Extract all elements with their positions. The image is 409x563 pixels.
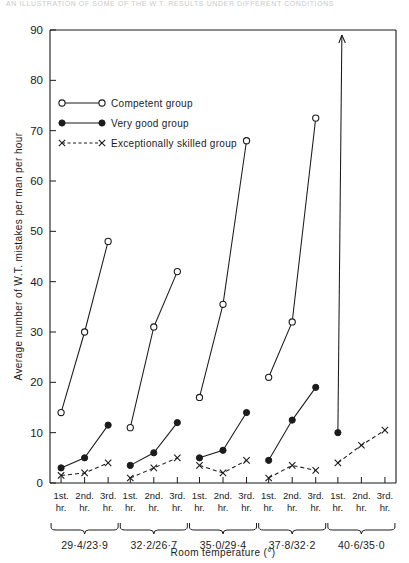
x-axis-hour-label: 3rd. [377,490,393,501]
group-brace [189,523,256,534]
data-point-marker [220,447,226,453]
data-point-marker [289,319,295,325]
group-brace [259,523,326,534]
y-axis-tick-label: 40 [30,276,43,288]
x-axis-hour-label: hr. [79,502,90,513]
x-axis-hour-label: hr. [125,502,136,513]
data-point-marker [196,462,202,468]
data-point-marker [266,457,272,463]
series-line [130,423,177,466]
y-axis-title: Average number of W.T. mistakes per man … [13,132,24,380]
x-axis-hour-label: hr. [310,502,321,513]
x-axis-hour-label: hr. [172,502,183,513]
group-temperature-label: 29·4/23·9 [61,539,108,551]
x-axis-hour-label: 2nd. [214,490,233,501]
series-line [199,141,246,398]
x-axis-title: Room temperature (°) [171,547,276,558]
chart-figure: 0102030405060708090Average number of W.T… [0,0,409,563]
series-line [338,430,385,463]
y-axis-tick-label: 80 [30,74,43,86]
legend-label: Very good group [111,118,189,129]
x-axis-hour-label: 2nd. [352,490,371,501]
data-point-marker [289,417,295,423]
y-axis-tick-label: 30 [30,326,43,338]
x-axis-hour-label: hr. [263,502,274,513]
data-point-marker [151,450,157,456]
x-axis-hour-label: 1st. [330,490,345,501]
data-point-marker [220,301,226,307]
group-brace [328,523,395,534]
x-axis-hour-label: hr. [287,502,298,513]
data-point-marker [174,455,180,461]
data-point-marker [313,115,319,121]
data-point-marker [382,427,388,433]
y-axis-tick-label: 90 [30,24,43,36]
data-point-marker [335,460,341,466]
y-axis-tick-label: 70 [30,125,43,137]
data-point-marker [127,462,133,468]
legend-sample-marker [59,100,65,106]
data-point-marker [151,465,157,471]
data-point-marker [82,455,88,461]
x-axis-hour-label: hr. [380,502,391,513]
data-point-marker [243,457,249,463]
series-line [61,425,108,468]
x-axis-hour-label: hr. [149,502,160,513]
series-line [130,272,177,428]
x-axis-hour-label: hr. [103,502,114,513]
group-brace [51,523,118,534]
data-point-marker [174,420,180,426]
data-point-marker [243,409,249,415]
x-axis-hour-label: 3rd. [238,490,254,501]
data-point-marker [196,455,202,461]
legend-sample-marker [99,100,105,106]
y-axis-tick-label: 60 [30,175,43,187]
series-line [61,241,108,412]
data-point-marker [58,409,64,415]
data-point-marker [127,425,133,431]
x-axis-hour-label: 2nd. [283,490,302,501]
x-axis-hour-label: 2nd. [75,490,94,501]
x-axis-hour-label: hr. [241,502,252,513]
x-axis-hour-label: 1st. [123,490,138,501]
off-scale-arrow-shaft [338,35,342,433]
y-axis-tick-label: 50 [30,225,43,237]
y-axis-tick-label: 0 [37,477,43,489]
x-axis-hour-label: 3rd. [308,490,324,501]
x-axis-hour-label: 2nd. [145,490,164,501]
data-point-marker [220,470,226,476]
data-point-marker [105,422,111,428]
y-axis-tick-label: 10 [30,427,43,439]
data-point-marker [105,238,111,244]
x-axis-hour-label: hr. [218,502,229,513]
x-axis-hour-label: hr. [333,502,344,513]
x-axis-hour-label: 3rd. [169,490,185,501]
data-point-marker [58,465,64,471]
legend-label: Exceptionally skilled group [111,138,237,149]
group-temperature-label: 40·6/35·0 [338,539,385,551]
legend-sample-marker [99,120,105,126]
data-point-marker [313,467,319,473]
data-point-marker [82,329,88,335]
data-point-marker [105,460,111,466]
y-axis-tick-label: 20 [30,376,43,388]
legend-sample-marker [59,120,65,126]
chart-svg: 0102030405060708090Average number of W.T… [0,0,409,563]
legend-label: Competent group [111,98,193,109]
series-line [269,387,316,460]
data-point-marker [196,394,202,400]
group-temperature-label: 37·8/32·2 [269,539,316,551]
x-axis-hour-label: 1st. [261,490,276,501]
series-line [269,118,316,377]
series-line [269,465,316,478]
x-axis-hour-label: hr. [356,502,367,513]
x-axis-hour-label: 1st. [192,490,207,501]
data-point-marker [174,269,180,275]
legend-sample-marker [99,140,105,146]
x-axis-hour-label: 1st. [53,490,68,501]
group-brace [120,523,187,534]
data-point-marker [243,138,249,144]
x-axis-hour-label: hr. [194,502,205,513]
data-point-marker [151,324,157,330]
data-point-marker [313,384,319,390]
